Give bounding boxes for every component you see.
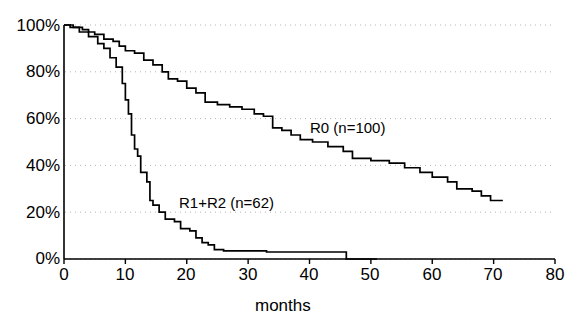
y-tick-label-40: 40% [2,157,60,174]
x-tick-label-80: 80 [535,266,575,283]
x-tick-label-50: 50 [350,266,390,283]
y-tick-label-20: 20% [2,204,60,221]
series-curve-r0 [64,25,503,201]
x-tick-label-60: 60 [412,266,452,283]
x-tick-label-10: 10 [105,266,145,283]
series-annotation-r1r2: R1+R2 (n=62) [179,195,274,210]
axes-group [64,25,555,264]
y-tick-label-60: 60% [2,110,60,127]
x-tick-label-40: 40 [289,266,329,283]
x-tick-label-30: 30 [228,266,268,283]
y-tick-label-100: 100% [2,17,60,34]
gridlines-group [65,25,555,259]
series-group [64,25,503,259]
x-tick-label-20: 20 [166,266,206,283]
y-tick-label-0: 0% [2,250,60,267]
x-axis-title: months [255,297,311,314]
series-curve-r1r2 [64,25,377,259]
y-tick-label-80: 80% [2,63,60,80]
x-tick-label-0: 0 [44,266,84,283]
kaplan-meier-chart: 100% 80% 60% 40% 20% 0% 0 10 20 30 40 50… [0,0,586,329]
series-annotation-r0: R0 (n=100) [310,120,385,135]
x-tick-label-70: 70 [473,266,513,283]
